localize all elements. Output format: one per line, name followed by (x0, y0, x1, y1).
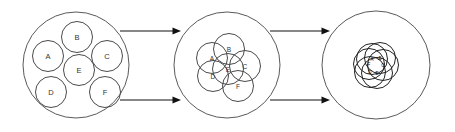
arrow-top-right (270, 28, 330, 35)
stage-1-label-a: A (45, 52, 50, 61)
arrow-bottom-left (120, 97, 181, 104)
arrow-top-left (120, 28, 181, 35)
arrow-bottom-left-head (173, 97, 182, 104)
stage-3-group: A B C D E F (322, 11, 430, 119)
stage-2-label-c: C (243, 63, 248, 70)
stage-3-label-d: D (368, 70, 372, 75)
arrow-bottom-right (270, 97, 330, 104)
stage-2-label-b: B (227, 46, 232, 53)
stage-2-label-d: D (211, 73, 216, 80)
arrow-bottom-right-head (322, 97, 331, 104)
stage-2-label-a: A (210, 55, 215, 62)
stage-1-label-e: E (76, 66, 81, 75)
circle-contraction-diagram: A B C D E F A B C D E F (0, 0, 455, 132)
stage-3-label-b: B (378, 56, 381, 61)
stage-1-label-d: D (48, 88, 54, 97)
stage-2-label-e: E (226, 66, 231, 73)
stage-1-group: A B C D E F (23, 12, 129, 118)
stage-2-label-f: F (236, 83, 240, 90)
stage-1-label-b: B (74, 33, 79, 42)
arrow-top-left-head (173, 28, 182, 35)
arrow-top-right-head (322, 28, 331, 35)
stage-1-label-c: C (104, 52, 110, 61)
stage-1-label-f: F (103, 88, 108, 97)
stage-3-outer-circle (322, 11, 430, 119)
stage-2-group: A B C D E F (174, 12, 280, 118)
diagram-page: A B C D E F A B C D E F (0, 0, 455, 132)
stage-3-label-f: F (368, 62, 371, 67)
stage-3-label-e: E (375, 71, 378, 76)
